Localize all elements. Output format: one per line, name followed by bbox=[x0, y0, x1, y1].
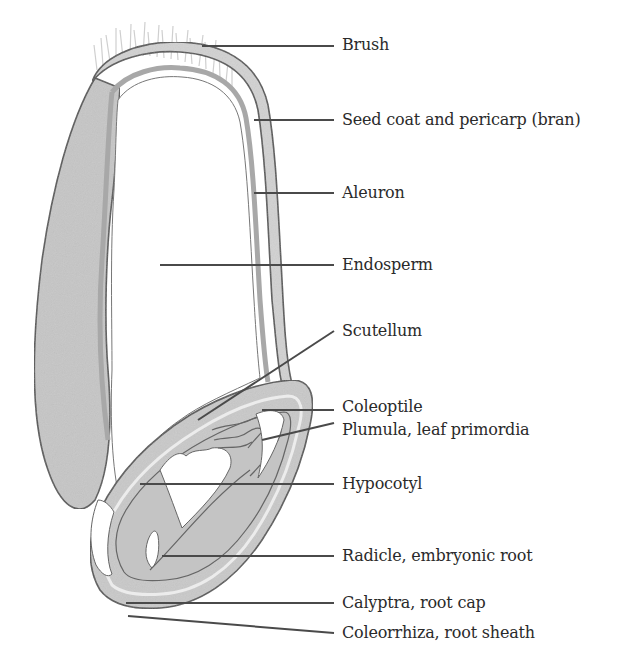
label-radicle: Radicle, embryonic root bbox=[342, 547, 532, 565]
label-hypocotyl: Hypocotyl bbox=[342, 475, 422, 493]
label-scutellum: Scutellum bbox=[342, 322, 422, 340]
label-plumula: Plumula, leaf primordia bbox=[342, 421, 529, 439]
label-coleorrhiza: Coleorrhiza, root sheath bbox=[342, 624, 535, 642]
label-calyptra: Calyptra, root cap bbox=[342, 594, 486, 612]
label-aleuron: Aleuron bbox=[342, 184, 405, 202]
leader-coleorrhiza bbox=[128, 616, 334, 633]
grain-section-illustration bbox=[0, 0, 619, 666]
label-brush: Brush bbox=[342, 36, 389, 54]
label-endosperm: Endosperm bbox=[342, 256, 433, 274]
label-coleoptile: Coleoptile bbox=[342, 398, 422, 416]
label-seed-coat: Seed coat and pericarp (bran) bbox=[342, 111, 580, 129]
